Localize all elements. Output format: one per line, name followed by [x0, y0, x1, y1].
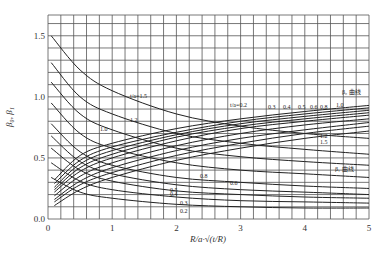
svg-text:t/a=1.5: t/a=1.5	[130, 93, 147, 99]
svg-text:0.3: 0.3	[180, 200, 188, 206]
svg-text:β₀ 曲线: β₀ 曲线	[342, 88, 361, 96]
svg-text:1.5: 1.5	[34, 31, 46, 41]
svg-text:1.0: 1.0	[336, 102, 344, 108]
svg-text:4: 4	[303, 223, 308, 233]
beta0-curve	[51, 148, 369, 198]
svg-text:1.0: 1.0	[34, 92, 46, 102]
svg-text:0.6: 0.6	[230, 180, 238, 186]
beta0-curve	[51, 82, 369, 165]
svg-text:0.4: 0.4	[283, 104, 291, 110]
svg-text:1.2: 1.2	[130, 117, 138, 123]
chart: 0.00.51.01.5012345β₀, β₁R/a·√(t/R) β₀ 曲线…	[0, 0, 387, 261]
svg-text:R/a·√(t/R): R/a·√(t/R)	[189, 234, 226, 244]
svg-text:5: 5	[367, 223, 372, 233]
svg-text:0.5: 0.5	[34, 153, 46, 163]
svg-text:0.4: 0.4	[170, 191, 178, 197]
svg-text:0.0: 0.0	[34, 214, 46, 224]
svg-text:0.6: 0.6	[310, 104, 318, 110]
svg-text:1.5: 1.5	[320, 139, 328, 145]
svg-text:0.8: 0.8	[200, 173, 208, 179]
svg-text:1.0: 1.0	[100, 126, 108, 132]
svg-text:t/a=0.2: t/a=0.2	[230, 102, 247, 108]
svg-text:1: 1	[110, 223, 115, 233]
svg-text:0: 0	[46, 223, 51, 233]
svg-text:3: 3	[238, 223, 243, 233]
svg-text:0.3: 0.3	[268, 104, 276, 110]
svg-text:0.5: 0.5	[298, 104, 306, 110]
svg-text:β₀, β₁: β₀, β₁	[4, 107, 14, 128]
svg-text:β₁ 曲线: β₁ 曲线	[335, 165, 354, 173]
svg-text:2: 2	[174, 223, 179, 233]
svg-text:0.8: 0.8	[320, 104, 328, 110]
svg-text:0.2: 0.2	[180, 208, 188, 214]
